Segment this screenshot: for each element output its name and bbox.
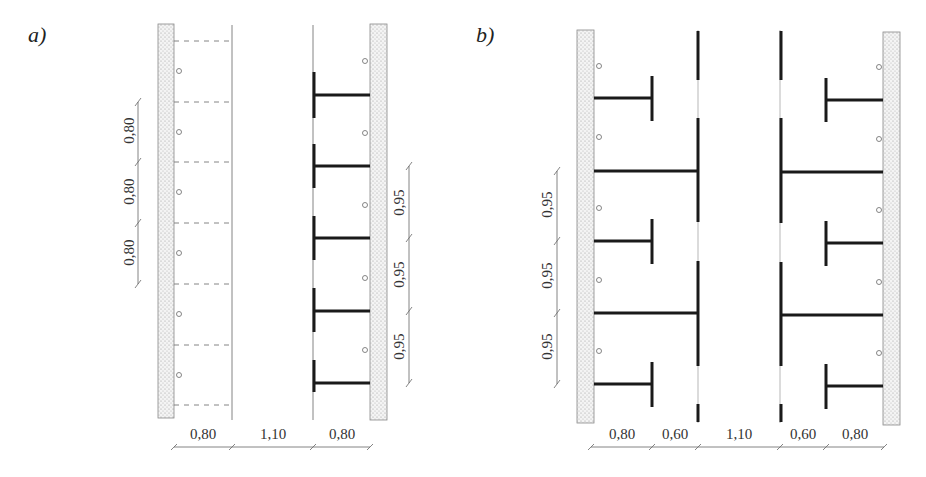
dim-b-bottom-4: 0,60 [773, 426, 833, 443]
dim-a-right-1: 0,95 [391, 178, 408, 228]
dim-a-right-2: 0,95 [391, 250, 408, 300]
dim-a-left-2: 0,80 [121, 167, 138, 217]
right-wall [370, 24, 387, 420]
dim-b-left-3: 0,95 [539, 322, 556, 372]
t-partitions-right [314, 72, 370, 392]
fixture-circles-left [597, 64, 602, 354]
bottom-dimension-line-a [171, 444, 373, 450]
panel-a-label: a) [28, 22, 46, 48]
panel-b-label: b) [476, 22, 494, 48]
dim-a-bottom-2: 1,10 [243, 426, 303, 443]
dim-a-left-1: 0,80 [121, 106, 138, 156]
dashed-bay-lines [174, 41, 232, 405]
dim-b-left-2: 0,95 [539, 251, 556, 301]
panel-a [135, 24, 412, 450]
dim-b-bottom-1: 0,80 [592, 426, 652, 443]
dim-b-left-1: 0,95 [539, 180, 556, 230]
dim-b-bottom-3: 1,10 [709, 426, 769, 443]
t-partitions-left [594, 31, 698, 422]
t-partitions-right [781, 31, 883, 422]
dim-a-right-3: 0,95 [391, 322, 408, 372]
fixture-circles-right [877, 65, 882, 356]
diagram-canvas [0, 0, 926, 477]
left-wall [577, 30, 594, 423]
fixture-circles-right [363, 59, 368, 353]
bottom-dimension-line-b [588, 444, 887, 450]
right-wall [883, 32, 900, 425]
panel-b [554, 30, 900, 450]
dim-a-left-3: 0,80 [121, 228, 138, 278]
left-wall [158, 24, 174, 418]
dim-b-bottom-5: 0,80 [825, 426, 885, 443]
dim-a-bottom-1: 0,80 [173, 426, 233, 443]
dim-a-bottom-3: 0,80 [312, 426, 372, 443]
dim-b-bottom-2: 0,60 [645, 426, 705, 443]
